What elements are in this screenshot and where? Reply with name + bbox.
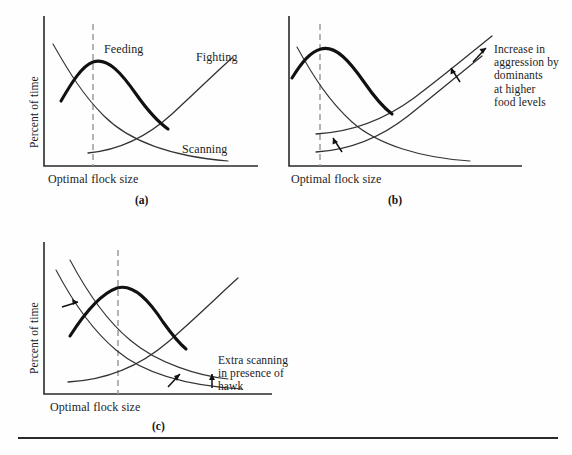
panel-c-x-axis-label: Optimal flock size	[50, 400, 140, 415]
panel-c-curve-scanning-shifted	[70, 260, 228, 379]
panel-a-curve-fighting	[88, 58, 232, 153]
panel-b-annotation-line-3: dominants	[494, 69, 559, 82]
figure-flock-size-tradeoffs: Percent of time Feeding Fighting Scannin…	[0, 0, 572, 455]
panel-b-annotation-line-2: aggression by	[494, 56, 559, 69]
panel-c-shift-arrow-mid	[168, 374, 180, 387]
panel-b-annotation-line-5: food levels	[494, 96, 559, 109]
panel-c-curve-feeding	[70, 287, 186, 349]
panel-a-x-axis-label: Optimal flock size	[48, 172, 138, 187]
panel-a-label-fighting: Fighting	[196, 50, 237, 65]
panel-a-label-scanning: Scanning	[182, 142, 227, 157]
panel-a-curve-feeding	[61, 61, 168, 129]
panel-a-y-axis-label: Percent of time	[28, 76, 40, 148]
panel-b-curve-feeding	[292, 48, 392, 114]
panel-c-shift-arrow-left	[62, 299, 78, 307]
panel-b-annotation-line-4: at higher	[494, 83, 559, 96]
panel-c: Percent of time	[0, 222, 330, 432]
panel-c-curve-scanning-baseline	[56, 270, 242, 389]
panel-a-letter: (a)	[135, 194, 148, 206]
bottom-divider	[18, 437, 558, 439]
panel-c-annotation-line-3: hawk	[218, 380, 288, 393]
panel-c-annotation: Extra scanning in presence of hawk	[218, 354, 288, 394]
panel-c-letter: (c)	[152, 420, 165, 432]
panel-b-curve-scanning	[297, 47, 470, 161]
panel-b-annotation: Increase in aggression by dominants at h…	[494, 43, 559, 109]
panel-b-letter: (b)	[388, 194, 402, 206]
panel-a-label-feeding: Feeding	[104, 42, 143, 57]
panel-c-curve-fighting	[68, 278, 238, 382]
panel-c-annotation-line-1: Extra scanning	[218, 354, 288, 367]
panel-b-curve-fighting-baseline	[316, 56, 482, 152]
panel-b-x-axis-label: Optimal flock size	[291, 172, 381, 187]
panel-c-annotation-line-2: in presence of	[218, 367, 288, 380]
panel-b-annotation-line-1: Increase in	[494, 43, 559, 56]
panel-c-y-axis-label: Percent of time	[28, 302, 40, 374]
panel-b: Increase in aggression by dominants at h…	[270, 0, 572, 215]
panel-a: Percent of time Feeding Fighting Scannin…	[0, 0, 265, 215]
